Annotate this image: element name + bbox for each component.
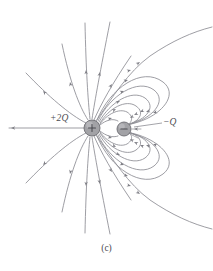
field-lines-loops-upper bbox=[97, 68, 169, 126]
figure-container: +2Q −Q (c) bbox=[0, 0, 213, 271]
field-lines-escaping-right bbox=[96, 27, 212, 229]
figure-caption: (c) bbox=[0, 243, 213, 253]
positive-charge-sphere bbox=[84, 120, 100, 136]
positive-charge-label: +2Q bbox=[50, 113, 69, 123]
electric-field-diagram bbox=[0, 0, 213, 271]
negative-label-leader bbox=[134, 123, 162, 127]
negative-charge-sphere bbox=[117, 122, 131, 136]
field-lines-left-fan bbox=[9, 22, 131, 234]
field-lines-loops-lower bbox=[97, 131, 169, 188]
negative-charge-label: −Q bbox=[163, 117, 177, 127]
